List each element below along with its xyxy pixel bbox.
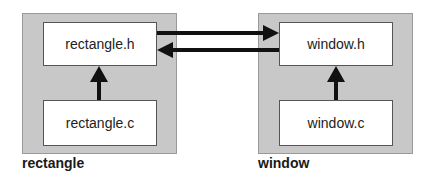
dependency-arrows bbox=[0, 0, 435, 178]
arrow-window-c-to-h bbox=[327, 66, 345, 100]
arrow-rectangle-h-to-window-h bbox=[157, 25, 279, 41]
arrow-rectangle-c-to-h bbox=[90, 66, 108, 100]
arrow-window-h-to-rectangle-h bbox=[157, 42, 279, 58]
